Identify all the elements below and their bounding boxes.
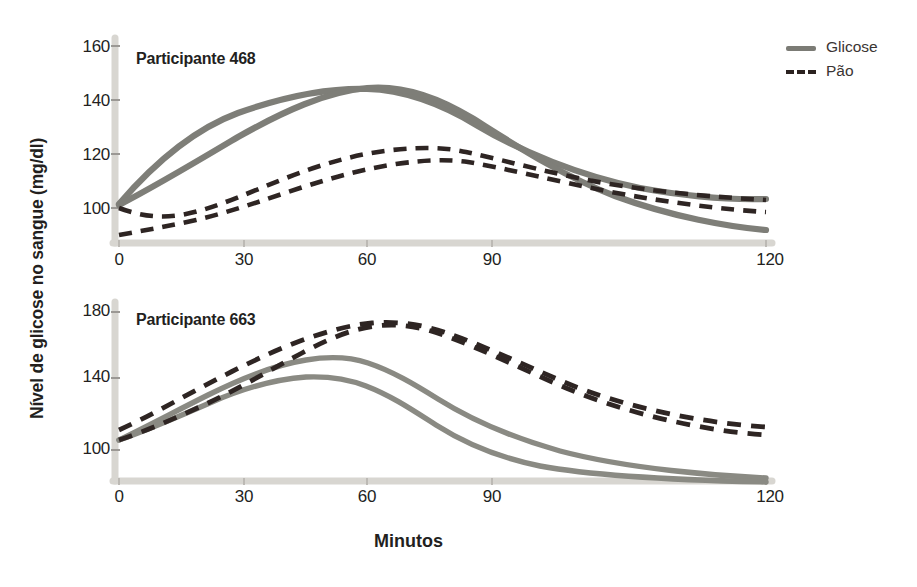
series-pao-1-663 xyxy=(119,322,766,430)
x-axis-title: Minutos xyxy=(0,531,917,552)
x-axis-title-text: Minutos xyxy=(374,531,443,551)
legend-label-glicose: Glicose xyxy=(826,38,878,56)
panel-participante-468: Participante 468 160 140 120 100 0 30 60… xyxy=(0,0,800,285)
plot-area-663 xyxy=(0,285,800,520)
series-pao-2-663 xyxy=(119,325,766,440)
legend-label-pao: Pão xyxy=(826,62,854,80)
chart-figure: · · · · · · Nível de glicose no sangue (… xyxy=(0,0,917,587)
panel-participante-663: Participante 663 180 140 100 0 30 60 90 … xyxy=(0,285,800,520)
plot-area-468 xyxy=(0,0,800,285)
series-glicose-1-663 xyxy=(119,358,766,478)
series-pao-2-468 xyxy=(119,160,766,235)
